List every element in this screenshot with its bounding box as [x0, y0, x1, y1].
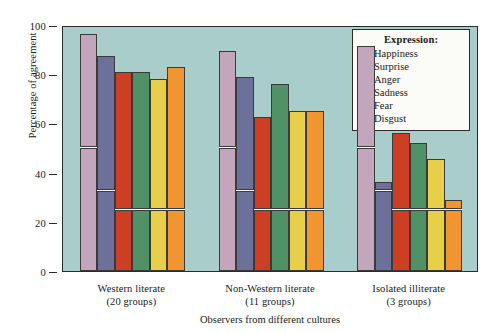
x-group-label-line: Isolated illiterate	[339, 282, 479, 295]
chance-level-marker	[445, 208, 463, 211]
chance-level-marker	[80, 146, 98, 149]
x-group-label-2: Non-Western literate(11 groups)	[200, 282, 340, 308]
legend-label: Happiness	[374, 47, 418, 60]
legend-label: Fear	[374, 99, 393, 112]
bar-surprise-group-2	[236, 77, 254, 271]
y-tick-label-20: 20	[6, 217, 46, 228]
x-group-label-line: Non-Western literate	[200, 282, 340, 295]
chance-level-marker	[236, 189, 254, 192]
chance-level-marker	[375, 189, 393, 192]
bar-disgust-group-2	[306, 111, 324, 271]
legend-label: Surprise	[374, 60, 409, 73]
legend-item-fear: Fear	[360, 99, 462, 112]
bar-surprise-group-3	[375, 182, 393, 271]
bar-fear-group-1	[150, 79, 168, 271]
x-group-label-line: (20 groups)	[61, 295, 201, 308]
bar-happiness-group-3	[357, 46, 375, 271]
y-tick-label-40: 40	[6, 168, 46, 179]
bar-anger-group-2	[254, 117, 272, 271]
y-tick-mark-60	[49, 124, 57, 125]
chance-level-marker	[357, 146, 375, 149]
bar-anger-group-1	[115, 72, 133, 271]
y-tick-label-100: 100	[6, 21, 46, 32]
bar-anger-group-3	[392, 133, 410, 271]
legend-item-sadness: Sadness	[360, 86, 462, 99]
legend-item-surprise: Surprise	[360, 60, 462, 73]
chance-level-marker	[115, 208, 133, 211]
y-tick-label-80: 80	[6, 70, 46, 81]
legend-label: Disgust	[374, 112, 406, 125]
chance-level-marker	[410, 208, 428, 211]
y-tick-mark-100	[49, 26, 57, 27]
y-tick-mark-80	[49, 75, 57, 76]
bar-surprise-group-1	[97, 56, 115, 271]
bar-sadness-group-2	[271, 84, 289, 271]
y-tick-mark-20	[49, 223, 57, 224]
bar-happiness-group-2	[219, 51, 237, 271]
bar-disgust-group-3	[445, 200, 463, 271]
legend-item-disgust: Disgust	[360, 112, 462, 125]
chance-level-marker	[167, 208, 185, 211]
legend-item-anger: Anger	[360, 73, 462, 86]
legend-rows: HappinessSurpriseAngerSadnessFearDisgust	[360, 47, 462, 125]
bar-happiness-group-1	[80, 34, 98, 271]
chance-level-marker	[97, 189, 115, 192]
x-group-label-line: (3 groups)	[339, 295, 479, 308]
figure-emotion-recognition-chart: Percentage of agreement 020406080100 Wes…	[0, 0, 498, 333]
chance-level-marker	[392, 208, 410, 211]
x-group-label-line: Western literate	[61, 282, 201, 295]
bar-fear-group-3	[427, 159, 445, 271]
bar-sadness-group-1	[132, 72, 150, 271]
y-tick-mark-40	[49, 174, 57, 175]
y-tick-label-60: 60	[6, 119, 46, 130]
chance-level-marker	[150, 208, 168, 211]
bar-fear-group-2	[289, 111, 307, 271]
x-group-label-1: Western literate(20 groups)	[61, 282, 201, 308]
y-axis: Percentage of agreement 020406080100	[0, 0, 62, 299]
y-tick-label-0: 0	[6, 267, 46, 278]
chance-level-marker	[271, 208, 289, 211]
bar-sadness-group-3	[410, 143, 428, 271]
chance-level-marker	[132, 208, 150, 211]
chance-level-marker	[306, 208, 324, 211]
chance-level-marker	[254, 208, 272, 211]
legend-title: Expression:	[360, 34, 462, 45]
bar-disgust-group-1	[167, 67, 185, 271]
chance-level-marker	[289, 208, 307, 211]
legend-item-happiness: Happiness	[360, 47, 462, 60]
chance-level-marker	[219, 146, 237, 149]
x-axis-title: Observers from different cultures	[62, 314, 478, 325]
x-group-label-line: (11 groups)	[200, 295, 340, 308]
legend-label: Anger	[374, 73, 400, 86]
x-group-label-3: Isolated illiterate(3 groups)	[339, 282, 479, 308]
y-tick-mark-0	[49, 272, 57, 273]
legend-label: Sadness	[374, 86, 408, 99]
chance-level-marker	[427, 208, 445, 211]
